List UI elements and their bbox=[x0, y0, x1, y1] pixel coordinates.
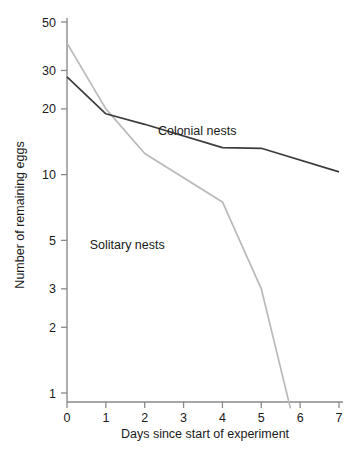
x-tick-label-4: 4 bbox=[219, 411, 226, 425]
y-tick-label-5: 5 bbox=[49, 234, 56, 248]
x-tick-label-3: 3 bbox=[180, 411, 187, 425]
x-tick-label-7: 7 bbox=[336, 411, 343, 425]
y-tick-label-1: 1 bbox=[49, 387, 56, 401]
x-axis: 01234567 bbox=[64, 402, 343, 425]
line-chart: 123510203050 01234567 Colonial nestsSoli… bbox=[0, 0, 349, 460]
y-axis: 123510203050 bbox=[42, 16, 67, 403]
annotation-group: Colonial nestsSolitary nests bbox=[90, 124, 237, 252]
series-group bbox=[67, 43, 339, 408]
y-axis-title: Number of remaining eggs bbox=[13, 141, 27, 288]
x-axis-title: Days since start of experiment bbox=[121, 427, 290, 441]
x-tick-label-0: 0 bbox=[64, 411, 71, 425]
chart-container: 123510203050 01234567 Colonial nestsSoli… bbox=[0, 0, 349, 460]
y-tick-label-20: 20 bbox=[42, 102, 56, 116]
y-tick-label-10: 10 bbox=[42, 168, 56, 182]
series-line-solitary-nests bbox=[67, 43, 290, 408]
y-tick-label-3: 3 bbox=[49, 282, 56, 296]
x-tick-label-5: 5 bbox=[258, 411, 265, 425]
y-ticks: 123510203050 bbox=[42, 16, 67, 401]
series-label-solitary-nests: Solitary nests bbox=[90, 238, 165, 252]
y-tick-label-2: 2 bbox=[49, 321, 56, 335]
y-tick-label-30: 30 bbox=[42, 64, 56, 78]
series-label-colonial-nests: Colonial nests bbox=[158, 124, 237, 138]
x-ticks: 01234567 bbox=[64, 402, 343, 425]
x-tick-label-6: 6 bbox=[297, 411, 304, 425]
x-tick-label-1: 1 bbox=[102, 411, 109, 425]
y-tick-label-50: 50 bbox=[42, 16, 56, 30]
x-tick-label-2: 2 bbox=[141, 411, 148, 425]
